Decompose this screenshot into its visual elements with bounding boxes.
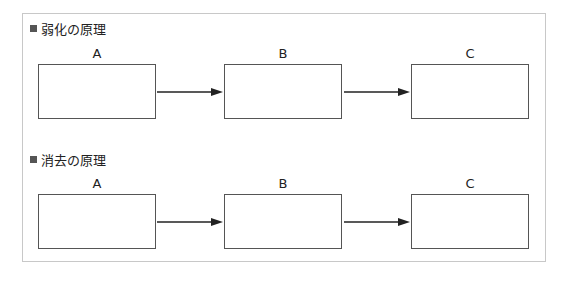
node-label-c: C <box>411 176 529 191</box>
square-bullet-icon <box>30 25 37 32</box>
square-bullet-icon <box>30 156 37 163</box>
node-box-a <box>38 64 156 119</box>
section-title-elimination: 消去の原理 <box>30 150 106 169</box>
section-title-text: 消去の原理 <box>41 150 106 169</box>
node-label-a: A <box>38 46 156 61</box>
node-label-c: C <box>411 46 529 61</box>
arrow-right-icon <box>344 217 410 227</box>
node-box-b <box>224 194 342 249</box>
section-title-text: 弱化の原理 <box>41 19 106 38</box>
section-title-weakening: 弱化の原理 <box>30 19 106 38</box>
arrow-right-icon <box>344 87 410 97</box>
arrow-right-icon <box>157 217 223 227</box>
node-box-c <box>411 64 529 119</box>
node-box-b <box>224 64 342 119</box>
node-label-b: B <box>224 46 342 61</box>
node-box-c <box>411 194 529 249</box>
arrow-right-icon <box>157 87 223 97</box>
node-label-b: B <box>224 176 342 191</box>
node-label-a: A <box>38 176 156 191</box>
node-box-a <box>38 194 156 249</box>
